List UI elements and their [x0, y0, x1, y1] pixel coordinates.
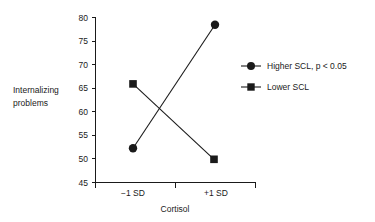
- y-tick-label-50: 50: [79, 154, 89, 164]
- legend-square-marker-icon: [247, 83, 254, 90]
- chart-legend: Higher SCL, p < 0.05 Lower SCL: [241, 61, 347, 92]
- legend-label-lower-scl: Lower SCL: [267, 82, 309, 92]
- data-point-lower-scl-minus-1-sd: [129, 80, 137, 88]
- chart-figure: 80 75 70 65 60 55 50 45 −1 SD +1 SD Cort…: [0, 0, 375, 222]
- x-tick-label-plus-1-sd: +1 SD: [204, 188, 228, 198]
- legend-item-higher-scl: Higher SCL, p < 0.05: [241, 61, 347, 71]
- data-point-higher-scl-plus-1-sd: [211, 21, 219, 29]
- series-higher-scl-line: [133, 25, 215, 149]
- y-tick-label-70: 70: [79, 60, 89, 70]
- x-axis-title: Cortisol: [161, 204, 190, 214]
- y-tick-label-55: 55: [79, 130, 89, 140]
- y-axis-title-line-1: Internalizing: [13, 85, 59, 95]
- x-axis-ticks: [96, 183, 256, 188]
- series-higher-scl: [129, 21, 219, 153]
- y-axis-title-line-2: problems: [13, 98, 48, 108]
- interaction-plot: 80 75 70 65 60 55 50 45 −1 SD +1 SD Cort…: [0, 0, 375, 222]
- y-tick-label-75: 75: [79, 36, 89, 46]
- series-lower-scl-line: [133, 84, 214, 159]
- x-tick-label-minus-1-sd: −1 SD: [121, 188, 145, 198]
- series-lower-scl: [129, 80, 218, 163]
- y-tick-label-65: 65: [79, 83, 89, 93]
- legend-item-lower-scl: Lower SCL: [241, 82, 309, 92]
- y-tick-label-80: 80: [79, 13, 89, 23]
- legend-label-higher-scl: Higher SCL, p < 0.05: [267, 61, 347, 71]
- y-tick-label-60: 60: [79, 107, 89, 117]
- data-point-lower-scl-plus-1-sd: [210, 156, 218, 164]
- y-tick-label-45: 45: [79, 178, 89, 188]
- y-axis-ticks: [92, 18, 96, 183]
- data-point-higher-scl-minus-1-sd: [129, 144, 137, 152]
- legend-circle-marker-icon: [247, 62, 255, 70]
